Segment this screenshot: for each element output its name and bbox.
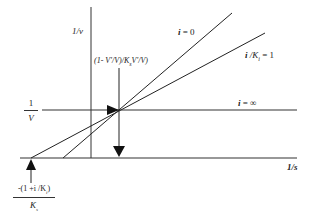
intersection-label: (1- V'/V)/KsV'/V) [94, 57, 148, 67]
label-i-over-ki-one: i /Ki = 1 [245, 51, 274, 62]
line-i-over-ki-one [31, 33, 265, 158]
y-intercept-label: 1 V [24, 99, 38, 123]
x-intercept-label: -(1 +i /Ki) Ks [13, 185, 55, 211]
x-axis-label: 1/s [287, 163, 298, 172]
up-arrowhead-icon [26, 159, 36, 170]
intersection-arrowhead-icon [107, 105, 119, 115]
down-arrowhead-icon [113, 146, 125, 157]
line-i-zero [63, 13, 232, 158]
label-i-infinity: i = ∞ [238, 99, 257, 108]
y-axis-label: 1/v [72, 27, 83, 36]
lineweaver-burk-diagram: 1/v 1/s (1- V'/V)/KsV'/V) i = 0 i /Ki = … [0, 0, 313, 219]
label-i-zero: i = 0 [178, 28, 195, 37]
